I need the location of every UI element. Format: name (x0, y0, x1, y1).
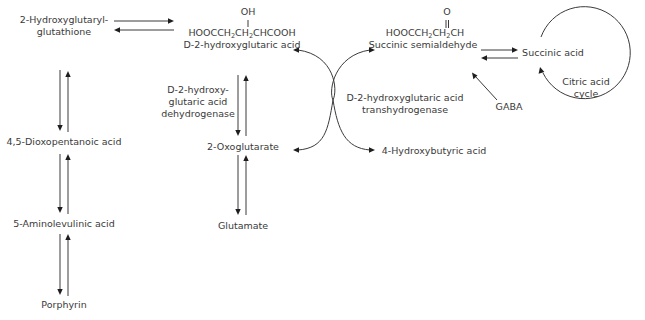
arrow-dioxopentanoic-aminolevulinic (57, 154, 70, 214)
arrow-glutathione-dioxopentanoic (57, 70, 70, 132)
node-porphyrin: Porphyrin (41, 299, 86, 311)
enzyme-d2hg-transhydrogenase: D-2-hydroxyglutaric acid transhydrogenas… (346, 92, 463, 116)
node-succinic-acid: Succinic acid (522, 47, 584, 59)
node-semialdehyde-name: Succinic semialdehyde (369, 39, 478, 51)
node-aminolevulinic-acid: 5-Aminolevulinic acid (13, 218, 115, 230)
arrow-oxoglutarate-glutamate (235, 155, 248, 215)
arrow-aminolevulinic-porphyrin (57, 234, 70, 296)
node-d2hg-name: D-2-hydroxyglutaric acid (183, 39, 300, 51)
arrow-d2hg-oxoglutarate (235, 75, 248, 136)
node-glutamate: Glutamate (218, 220, 268, 232)
arrow-gaba-semialdehyde (472, 73, 497, 101)
node-semialdehyde-formula: HOOCCH2CH2CH (386, 27, 464, 39)
node-hydroxybutyric-acid: 4-Hydroxybutyric acid (382, 145, 487, 157)
enzyme-d2hg-dehydrogenase: D-2-hydroxy- glutaric acid dehydrogenase (161, 84, 235, 120)
node-dioxopentanoic-acid: 4,5-Dioxopentanoic acid (6, 136, 121, 148)
node-d2hg-formula: HOOCCH2CH2CHCOOH (188, 27, 295, 39)
arrow-semialdehyde-succinic (481, 47, 518, 60)
node-hydroxyglutaryl-glutathione: 2-Hydroxyglutaryl- glutathione (20, 14, 109, 38)
node-d2hg-hydroxyl: OH (241, 6, 256, 18)
node-semialdehyde-oxygen: O (443, 6, 450, 18)
node-oxoglutarate: 2-Oxoglutarate (207, 141, 279, 153)
arrow-glutathione-d2hg (114, 18, 174, 32)
node-gaba: GABA (496, 101, 523, 113)
node-citric-acid-cycle: Citric acid cycle (562, 76, 610, 100)
